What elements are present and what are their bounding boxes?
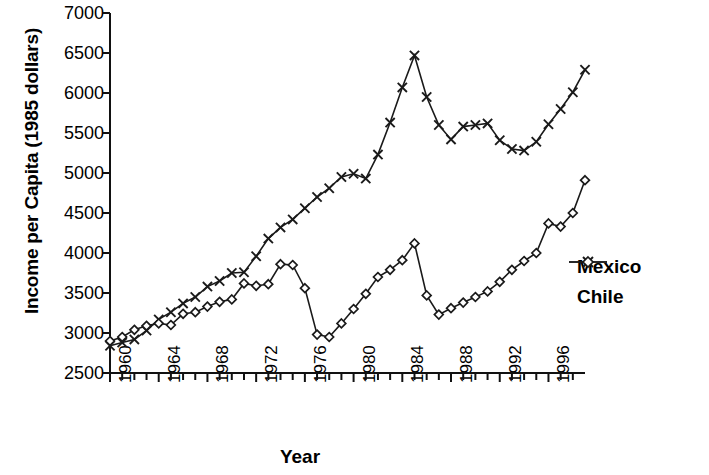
legend-item-chile: Chile <box>568 282 641 312</box>
chart-figure: 2500300035004000450050005500600065007000… <box>0 0 709 475</box>
marker-diamond-icon <box>532 249 541 258</box>
marker-x-icon <box>300 204 309 213</box>
marker-x-icon <box>349 169 358 178</box>
marker-x-icon <box>580 65 589 74</box>
marker-diamond-icon <box>447 304 456 313</box>
marker-x-icon <box>191 292 200 301</box>
marker-diamond-icon <box>301 284 310 293</box>
marker-diamond-icon <box>581 176 590 185</box>
marker-x-icon <box>252 252 261 261</box>
marker-x-icon <box>166 308 175 317</box>
series-chile <box>106 176 590 346</box>
marker-diamond-icon <box>203 302 212 311</box>
marker-x-icon <box>434 120 443 129</box>
marker-diamond-icon <box>434 310 443 319</box>
marker-x-icon <box>446 135 455 144</box>
marker-x-icon <box>544 120 553 129</box>
marker-x-icon <box>325 184 334 193</box>
marker-x-icon <box>312 192 321 201</box>
marker-x-icon <box>276 223 285 232</box>
marker-diamond-icon <box>459 298 468 307</box>
marker-x-icon <box>532 137 541 146</box>
marker-x-icon <box>386 118 395 127</box>
marker-diamond-icon <box>191 308 200 317</box>
data-series-layer <box>105 51 589 351</box>
marker-x-icon <box>130 335 139 344</box>
marker-diamond-icon <box>106 337 115 346</box>
marker-diamond-icon <box>471 293 480 302</box>
marker-x-icon <box>495 136 504 145</box>
marker-x-icon <box>373 150 382 159</box>
marker-x-icon <box>337 172 346 181</box>
marker-diamond-icon <box>422 291 431 300</box>
marker-x-icon <box>203 282 212 291</box>
marker-x-icon <box>568 88 577 97</box>
marker-x-icon <box>422 92 431 101</box>
marker-diamond-icon <box>544 219 553 228</box>
marker-diamond-icon <box>288 261 297 270</box>
marker-x-icon <box>361 174 370 183</box>
series-mexico <box>105 51 589 351</box>
marker-x-icon <box>264 234 273 243</box>
marker-x-icon <box>178 299 187 308</box>
marker-diamond-icon <box>313 330 322 339</box>
marker-diamond-icon <box>130 325 139 334</box>
chart-legend: MexicoChile <box>568 252 641 312</box>
marker-diamond-icon <box>252 281 261 290</box>
legend-label: Chile <box>577 286 623 308</box>
marker-x-icon <box>410 51 419 60</box>
marker-x-icon <box>398 83 407 92</box>
marker-x-icon <box>288 215 297 224</box>
marker-diamond-icon <box>215 297 224 306</box>
legend-marker-diamond-icon <box>568 252 608 272</box>
marker-diamond-icon <box>154 319 163 328</box>
marker-x-icon <box>215 276 224 285</box>
marker-diamond-icon <box>276 260 285 269</box>
axis-lines <box>103 13 585 382</box>
plot-canvas <box>0 0 709 475</box>
marker-diamond-icon <box>264 280 273 289</box>
marker-x-icon <box>556 104 565 113</box>
